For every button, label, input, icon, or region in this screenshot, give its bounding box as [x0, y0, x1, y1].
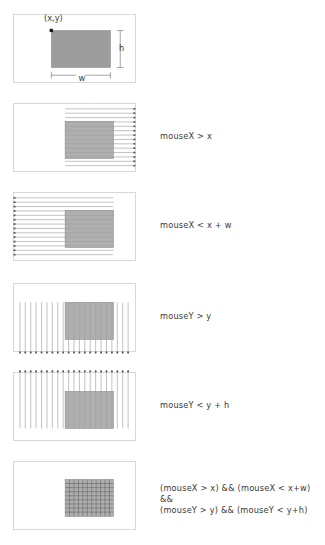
- hit-test-figure: (x,y) h w: [0, 0, 325, 545]
- left-arrowhead-group: [14, 197, 16, 256]
- reference-rectangle: [65, 121, 113, 158]
- diagram-box-mousex-gt-x: [13, 103, 136, 172]
- caption-mousey-gt-y: mouseY > y: [160, 311, 211, 322]
- diagram-box-combined: [13, 461, 136, 530]
- definitions-diagram: [14, 15, 135, 82]
- height-label: h: [119, 43, 124, 53]
- combined-diagram: [14, 462, 135, 529]
- down-arrowhead-group: [19, 352, 129, 354]
- reference-rectangle: [51, 31, 110, 68]
- diagram-box-mousex-lt-xw: [13, 192, 136, 261]
- origin-point-dot: [50, 29, 53, 32]
- right-arrowhead-group: [133, 108, 135, 167]
- reference-rectangle: [65, 479, 113, 516]
- diagram-box-definitions: (x,y) h w: [13, 14, 136, 83]
- caption-mousex-lt-xw: mouseX < x + w: [160, 220, 232, 231]
- mousey-gt-y-diagram: [14, 284, 135, 351]
- mousex-lt-xw-diagram: [14, 193, 135, 260]
- width-label: w: [79, 73, 86, 83]
- reference-rectangle: [65, 391, 113, 428]
- mousex-gt-x-diagram: [14, 104, 135, 171]
- mousey-lt-yh-diagram: [14, 373, 135, 440]
- caption-mousex-gt-x: mouseX > x: [160, 131, 212, 142]
- reference-rectangle: [65, 302, 113, 339]
- caption-combined: (mouseX > x) && (mouseX < x+w) && (mouse…: [160, 483, 325, 516]
- caption-mousey-lt-yh: mouseY < y + h: [160, 400, 229, 411]
- reference-rectangle: [65, 210, 113, 247]
- diagram-box-mousey-lt-yh: [13, 372, 136, 441]
- diagram-box-mousey-gt-y: [13, 283, 136, 352]
- origin-label: (x,y): [44, 13, 63, 23]
- up-arrowhead-group: [19, 370, 129, 372]
